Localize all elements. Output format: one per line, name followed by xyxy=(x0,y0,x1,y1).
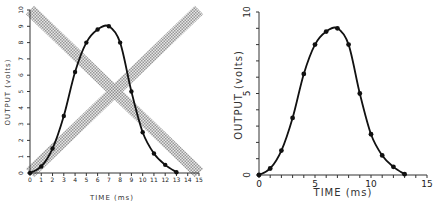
y-tick-label: 7 xyxy=(17,57,24,61)
y-axis-title: OUTPUT (volts) xyxy=(233,50,244,140)
data-point xyxy=(313,42,318,47)
x-tick-label: 6 xyxy=(96,176,100,183)
x-tick-label: 0 xyxy=(28,176,32,183)
x-tick-label: 11 xyxy=(150,176,158,183)
x-axis-title: TIME (ms) xyxy=(89,194,134,202)
data-point xyxy=(129,89,133,93)
y-tick-label: 8 xyxy=(17,41,24,45)
data-point xyxy=(346,42,351,47)
x-tick-label: 2 xyxy=(51,176,55,183)
data-point xyxy=(301,72,306,77)
right-chart-canvas: 0510150510 TIME (ms) OUTPUT (volts) xyxy=(220,0,434,204)
x-tick-label: 1 xyxy=(39,176,43,183)
x-tick-label: 4 xyxy=(73,176,77,183)
data-point xyxy=(140,130,144,134)
x-tick-label: 15 xyxy=(195,176,203,183)
data-point xyxy=(174,170,178,174)
y-tick-label: 0 xyxy=(17,171,24,175)
x-tick-label: 7 xyxy=(107,176,111,183)
data-point xyxy=(163,163,167,167)
y-tick-label: 2 xyxy=(17,138,24,142)
x-tick-label: 12 xyxy=(161,176,169,183)
y-tick-label: 5 xyxy=(17,89,24,93)
y-tick-label: 4 xyxy=(17,106,24,110)
y-tick-label: 1 xyxy=(17,155,24,159)
y-tick-label: 6 xyxy=(17,73,24,77)
x-tick-label: 10 xyxy=(139,176,147,183)
axes: 0510150510 xyxy=(242,6,433,189)
x-tick-label: 3 xyxy=(62,176,66,183)
data-series xyxy=(257,26,407,178)
x-tick-label: 9 xyxy=(129,176,133,183)
data-point xyxy=(39,164,43,168)
data-point xyxy=(95,27,99,31)
data-point xyxy=(152,151,156,155)
y-tick-label: 10 xyxy=(242,6,252,18)
x-axis-title: TIME (ms) xyxy=(313,187,373,198)
data-point xyxy=(290,116,295,121)
data-point xyxy=(107,24,111,28)
data-point xyxy=(50,146,54,150)
x-tick-label: 13 xyxy=(173,176,181,183)
x-tick-label: 0 xyxy=(256,179,262,189)
y-tick-label: 10 xyxy=(17,6,24,14)
x-tick-label: 5 xyxy=(84,176,88,183)
y-axis-title: OUTPUT (volts) xyxy=(4,59,12,126)
data-point xyxy=(357,91,362,96)
data-point xyxy=(380,153,385,158)
data-point xyxy=(279,148,284,153)
right-chart: 0510150510 TIME (ms) OUTPUT (volts) xyxy=(220,0,434,204)
y-tick-label: 0 xyxy=(242,172,252,178)
x-tick-label: 15 xyxy=(421,179,432,189)
data-point xyxy=(391,164,396,169)
data-point xyxy=(62,114,66,118)
left-chart-canvas: 0123456789101112131415012345678910 TIME … xyxy=(0,0,220,204)
x-tick-label: 14 xyxy=(184,176,192,183)
data-point xyxy=(118,40,122,44)
data-point xyxy=(28,171,32,175)
left-chart-with-bands: 0123456789101112131415012345678910 TIME … xyxy=(0,0,220,204)
data-point xyxy=(73,70,77,74)
y-tick-label: 3 xyxy=(17,122,24,126)
data-point xyxy=(84,40,88,44)
data-point xyxy=(335,26,340,31)
data-point xyxy=(324,29,329,34)
data-point xyxy=(268,166,273,171)
data-point xyxy=(402,172,407,177)
y-tick-label: 9 xyxy=(17,24,24,28)
data-point xyxy=(369,132,374,137)
data-point xyxy=(257,173,262,178)
x-tick-label: 8 xyxy=(118,176,122,183)
